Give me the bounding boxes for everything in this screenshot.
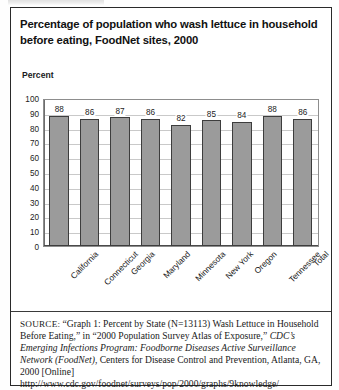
- bar-slot: 82: [166, 100, 196, 246]
- bar-slot: 86: [74, 100, 104, 246]
- bar: 82: [171, 125, 190, 246]
- bar-value-label: 82: [175, 114, 186, 123]
- bar: 86: [80, 119, 99, 246]
- y-axis-tick-label: 20: [30, 213, 39, 222]
- x-axis-tick-label: California: [69, 249, 101, 281]
- y-axis-tick-label: 10: [30, 228, 39, 237]
- chart-title-line-2: before eating, FoodNet sites, 2000: [20, 34, 198, 46]
- bar-value-label: 84: [236, 111, 247, 120]
- x-axis-tick-label: Minnesota: [193, 249, 227, 283]
- x-axis-tick-label: New York: [223, 249, 255, 281]
- y-axis-tick-label: 40: [30, 183, 39, 192]
- bar-series: 888687868285848886: [44, 100, 318, 246]
- bar-slot: 86: [288, 100, 318, 246]
- y-axis-tick-label: 50: [30, 169, 39, 178]
- bar-value-label: 86: [84, 108, 95, 117]
- chart-plot: 1009080706050403020100 88868786828584888…: [20, 92, 320, 257]
- bar-slot: 88: [44, 100, 74, 246]
- y-axis-tick-label: 60: [30, 154, 39, 163]
- y-axis-tick-label: 80: [30, 124, 39, 133]
- figure-page: Percentage of population who wash lettuc…: [0, 0, 339, 390]
- y-axis-tick-label: 30: [30, 198, 39, 207]
- bar: 88: [263, 116, 282, 246]
- bar-slot: 86: [135, 100, 165, 246]
- bar: 85: [202, 120, 221, 246]
- source-divider: [11, 311, 331, 312]
- source-label: SOURCE:: [20, 319, 60, 329]
- bar-value-label: 88: [267, 105, 278, 114]
- y-axis-tick-label: 70: [30, 139, 39, 148]
- bar-slot: 85: [196, 100, 226, 246]
- plot-area: 888687868285848886: [43, 99, 319, 247]
- y-axis-ticks: 1009080706050403020100: [20, 92, 41, 247]
- source-note: SOURCE: “Graph 1: Percent by State (N=13…: [20, 318, 322, 390]
- bar: 88: [49, 116, 68, 246]
- y-axis-title: Percent: [22, 70, 54, 80]
- source-url: http://www.cdc.gov/foodnet/surveys/pop/2…: [20, 378, 322, 390]
- bar-value-label: 86: [145, 108, 156, 117]
- bar-value-label: 87: [115, 107, 126, 116]
- bar: 87: [110, 117, 129, 246]
- scan-edge-artifact: [8, 0, 104, 5]
- bar-slot: 88: [257, 100, 287, 246]
- bar-slot: 87: [105, 100, 135, 246]
- bar-value-label: 85: [206, 110, 217, 119]
- bar-value-label: 88: [54, 105, 65, 114]
- chart-title: Percentage of population who wash lettuc…: [20, 17, 320, 48]
- bar: 86: [141, 119, 160, 246]
- y-axis-tick-label: 90: [30, 109, 39, 118]
- bar-slot: 84: [227, 100, 257, 246]
- bar: 86: [293, 119, 312, 246]
- x-axis-category-labels: CaliforniaConnecticutGeorgiaMarylandMinn…: [43, 249, 321, 297]
- bar: 84: [232, 122, 251, 246]
- x-axis-tick-label: Oregon: [252, 249, 279, 276]
- x-axis-tick-label: Maryland: [161, 249, 192, 280]
- y-axis-tick-label: 100: [25, 95, 39, 104]
- chart-title-line-1: Percentage of population who wash lettuc…: [20, 18, 318, 30]
- y-axis-tick-label: 0: [34, 243, 39, 252]
- bar-value-label: 86: [297, 108, 308, 117]
